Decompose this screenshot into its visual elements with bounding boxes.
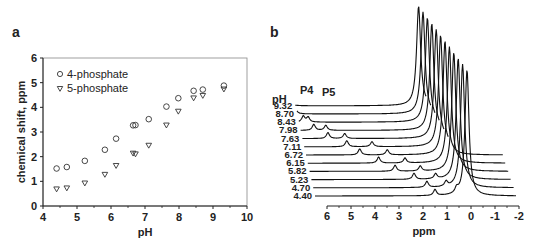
x-tick-label: 4 [40, 211, 47, 223]
legend-circle-marker [57, 71, 62, 76]
y-tick-label: 1 [31, 175, 37, 187]
x-tick-label: 5 [74, 211, 80, 223]
x-tick-label: 7 [142, 211, 148, 223]
point-4-phosphate [191, 88, 197, 94]
point-5-phosphate [176, 109, 182, 114]
legend-triangle-marker [57, 87, 62, 92]
ppm-tick-label: 5 [348, 210, 354, 222]
panel-b: b pH P4 P5 4.404.705.235.826.156.727.117… [270, 7, 524, 237]
point-5-phosphate [200, 93, 206, 98]
ppm-tick-label: 3 [396, 210, 402, 222]
panel-a: a 0123456 45678910 chemical shift, ppm p… [12, 24, 253, 238]
x-tick-label: 8 [176, 211, 182, 223]
point-4-phosphate [102, 147, 108, 153]
ph-label: 9.32 [274, 100, 293, 111]
legend-label-5-phosphate: 5-phosphate [67, 82, 128, 94]
data-points [54, 83, 227, 192]
ppm-tick-label: 6 [324, 210, 330, 222]
y-tick-label: 2 [31, 151, 37, 163]
point-5-phosphate [191, 96, 197, 101]
y-tick-label: 4 [31, 101, 38, 113]
ppm-tick-label: 4 [372, 210, 379, 222]
x-axis-label: pH [138, 226, 153, 238]
point-5-phosphate [146, 143, 152, 148]
spectrum-trace [311, 59, 510, 180]
point-5-phosphate [113, 163, 119, 168]
y-ticks: 0123456 [31, 52, 43, 212]
point-4-phosphate [221, 83, 227, 89]
peak-label-p5: P5 [322, 86, 335, 98]
ppm-tick-label: 1 [444, 210, 450, 222]
panel-b-label: b [270, 24, 279, 40]
spectra-traces [295, 7, 516, 196]
x-ticks: 45678910 [40, 206, 253, 223]
spectrum-trace [310, 53, 509, 171]
ppm-tick-label: 0 [468, 210, 474, 222]
y-tick-label: 5 [31, 77, 37, 89]
ppm-ticks: 6543210-1-2 [324, 206, 524, 222]
point-5-phosphate [102, 172, 108, 177]
y-tick-label: 0 [31, 200, 37, 212]
figure: a 0123456 45678910 chemical shift, ppm p… [0, 0, 540, 247]
ppm-tick-label: -2 [514, 210, 524, 222]
point-5-phosphate [64, 186, 70, 191]
point-5-phosphate [164, 123, 170, 128]
spectrum-trace [297, 12, 431, 114]
point-4-phosphate [82, 158, 88, 164]
point-5-phosphate [54, 187, 60, 192]
point-4-phosphate [113, 136, 119, 142]
x-tick-label: 10 [241, 211, 253, 223]
point-4-phosphate [64, 164, 70, 170]
point-4-phosphate [176, 95, 182, 101]
point-4-phosphate [200, 87, 206, 93]
point-4-phosphate [54, 166, 60, 172]
y-tick-label: 6 [31, 52, 37, 64]
point-4-phosphate [146, 116, 152, 122]
point-5-phosphate [221, 87, 227, 92]
peak-label-p4: P4 [300, 84, 314, 96]
ph-labels: 4.404.705.235.826.156.727.117.637.988.43… [274, 100, 312, 201]
y-tick-label: 3 [31, 126, 37, 138]
ppm-tick-label: 2 [420, 210, 426, 222]
point-5-phosphate [82, 181, 88, 186]
panel-a-label: a [12, 24, 20, 40]
legend: 4-phosphate 5-phosphate [57, 68, 128, 94]
x-tick-label: 9 [210, 211, 216, 223]
ppm-tick-label: -1 [490, 210, 500, 222]
y-axis-label: chemical shift, ppm [15, 80, 27, 183]
point-4-phosphate [164, 104, 170, 110]
spectrum-trace [295, 7, 426, 106]
ppm-axis-label: ppm [412, 225, 435, 237]
spectrum-trace [313, 64, 513, 188]
legend-label-4-phosphate: 4-phosphate [67, 68, 128, 80]
x-tick-label: 6 [108, 211, 114, 223]
plot-area-frame [43, 58, 247, 206]
